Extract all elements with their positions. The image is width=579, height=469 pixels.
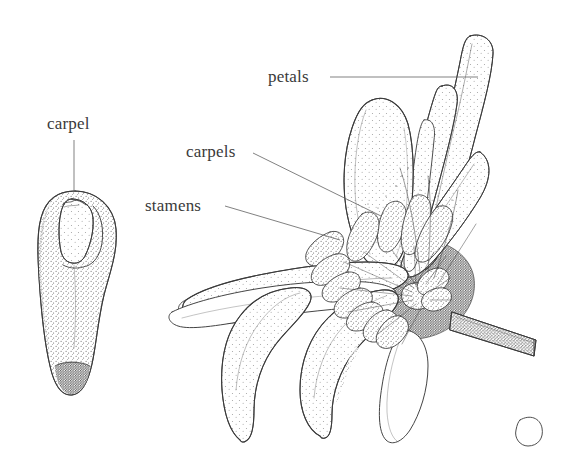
label-petals: petals bbox=[268, 68, 309, 85]
leader-stamens bbox=[225, 206, 340, 240]
label-carpels: carpels bbox=[186, 143, 236, 160]
carpel-detail-drawing bbox=[38, 191, 116, 395]
flower-drawing bbox=[169, 35, 543, 446]
botanical-figure: carpel petals carpels stamens bbox=[0, 0, 579, 469]
label-stamens: stamens bbox=[145, 197, 201, 214]
label-carpel: carpel bbox=[47, 115, 90, 132]
